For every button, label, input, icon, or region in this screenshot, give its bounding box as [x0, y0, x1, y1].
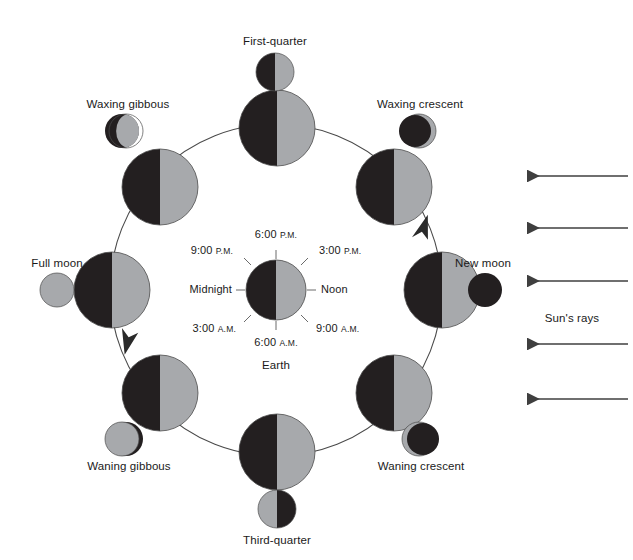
phase-label-full-moon: Full moon	[31, 258, 82, 270]
orbit-moon-first-quarter	[239, 90, 315, 166]
phase-icon-third-quarter	[258, 490, 296, 528]
time-label-9am: 9:00 A.M.	[316, 323, 359, 335]
phase-icon-new-moon	[468, 273, 502, 307]
time-value: 3:00	[193, 322, 215, 334]
time-label-3pm: 3:00 P.M.	[319, 245, 361, 257]
time-label-noon: Noon	[321, 284, 348, 296]
phase-icon-waning-gibbous	[105, 422, 143, 456]
phase-icon-waxing-crescent	[399, 114, 436, 148]
time-value: 6:00	[254, 336, 276, 348]
phase-label-waning-gibbous: Waning gibbous	[87, 461, 170, 473]
moon-phases-diagram	[0, 0, 633, 560]
time-value: 6:00	[255, 228, 277, 240]
orbit-moon-third-quarter	[239, 414, 315, 490]
phase-label-waning-crescent: Waning crescent	[378, 461, 465, 473]
time-label-midnight: Midnight	[190, 284, 232, 296]
orbit-moon-waning-crescent	[356, 355, 432, 431]
time-period: P.M.	[280, 230, 297, 240]
phase-icon-first-quarter	[256, 53, 294, 91]
earth-body	[236, 250, 316, 330]
orbit-moon-waning-gibbous	[122, 355, 198, 431]
time-period: P.M.	[344, 246, 361, 256]
time-label-9pm: 9:00 P.M.	[191, 245, 233, 257]
sun-rays-group	[527, 176, 628, 399]
orbit-moon-waxing-gibbous	[122, 149, 198, 225]
phase-icon-full-moon	[40, 273, 74, 307]
time-value: 9:00	[316, 322, 338, 334]
phase-label-first-quarter: First-quarter	[243, 36, 307, 48]
phase-label-waxing-gibbous: Waxing gibbous	[87, 99, 170, 111]
time-value: 9:00	[191, 244, 213, 256]
phase-label-waxing-crescent: Waxing crescent	[377, 99, 463, 111]
time-period: P.M.	[216, 246, 233, 256]
time-value: 3:00	[319, 244, 341, 256]
time-period: A.M.	[279, 338, 297, 348]
phase-label-third-quarter: Third-quarter	[243, 535, 311, 547]
phase-icon-waning-crescent	[402, 422, 439, 456]
phase-label-new-moon: New moon	[455, 258, 511, 270]
time-value: Midnight	[190, 283, 232, 295]
time-period: A.M.	[218, 324, 236, 334]
orbit-moon-waxing-crescent	[356, 149, 432, 225]
earth-label: Earth	[262, 360, 290, 372]
time-period: A.M.	[341, 324, 359, 334]
time-label-6pm: 6:00 P.M.	[255, 229, 297, 241]
phase-icon-waxing-gibbous	[105, 114, 143, 148]
time-label-6am: 6:00 A.M.	[254, 337, 297, 349]
time-value: Noon	[321, 283, 348, 295]
suns-rays-label: Sun's rays	[545, 313, 599, 325]
time-label-3am: 3:00 A.M.	[193, 323, 236, 335]
orbit-moon-full	[74, 252, 150, 328]
